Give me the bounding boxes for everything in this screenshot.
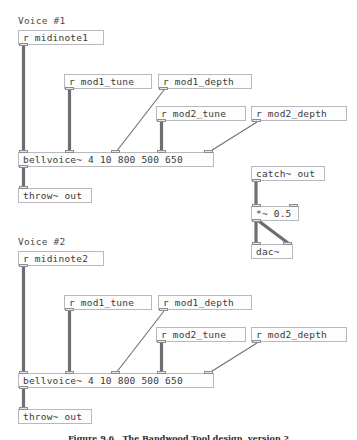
- object-r-midinote2[interactable]: r midinote2: [18, 251, 104, 266]
- inlet-bellvoice-v2-4[interactable]: [204, 371, 213, 374]
- object-r-midinote1[interactable]: r midinote1: [18, 30, 104, 45]
- outlet-r-mod2-depth-v2[interactable]: [252, 340, 261, 343]
- object-throw-out-v1[interactable]: throw~ out: [18, 188, 92, 203]
- inlet-bellvoice-v2-3[interactable]: [157, 371, 166, 374]
- outlet-gain[interactable]: [252, 219, 261, 222]
- outlet-bellvoice-v1[interactable]: [19, 165, 28, 168]
- inlet-dac-right[interactable]: [283, 242, 292, 245]
- outlet-r-midinote1[interactable]: [19, 43, 28, 46]
- object-r-mod1-tune-v1[interactable]: r mod1_tune: [64, 74, 152, 89]
- figure-caption: Figure 9.6 The Bandwood Tool design, ver…: [0, 433, 357, 440]
- outlet-r-mod2-tune-v1[interactable]: [157, 119, 166, 122]
- inlet-throw-out-v2[interactable]: [19, 407, 28, 410]
- object-r-mod2-depth-v1[interactable]: r mod2_depth: [251, 106, 347, 121]
- inlet-bellvoice-v1-4[interactable]: [204, 150, 213, 153]
- outlet-r-mod1-depth-v2[interactable]: [159, 308, 168, 311]
- comment-voice-1: Voice #1: [18, 15, 65, 27]
- outlet-r-mod1-tune-v2[interactable]: [65, 308, 74, 311]
- pd-patch-canvas: Voice #1 r midinote1 r mod1_tune r mod1_…: [0, 0, 357, 440]
- inlet-bellvoice-v2-2[interactable]: [111, 371, 120, 374]
- object-catch-out[interactable]: catch~ out: [251, 166, 325, 181]
- outlet-r-mod1-tune-v1[interactable]: [65, 87, 74, 90]
- inlet-dac-left[interactable]: [252, 242, 261, 245]
- outlet-r-mod2-depth-v1[interactable]: [252, 119, 261, 122]
- object-throw-out-v2[interactable]: throw~ out: [18, 409, 92, 424]
- object-r-mod2-depth-v2[interactable]: r mod2_depth: [251, 327, 347, 342]
- inlet-gain-right[interactable]: [289, 204, 298, 207]
- object-dac[interactable]: dac~: [251, 244, 293, 259]
- inlet-bellvoice-v2-0[interactable]: [19, 371, 28, 374]
- outlet-r-midinote2[interactable]: [19, 264, 28, 267]
- wire-mod2depth2-to-bellvoice: [209, 343, 257, 373]
- wire-mod2depth-to-bellvoice: [209, 122, 257, 152]
- inlet-bellvoice-v1-1[interactable]: [65, 150, 74, 153]
- object-r-mod2-tune-v1[interactable]: r mod2_tune: [156, 106, 246, 121]
- object-r-mod2-tune-v2[interactable]: r mod2_tune: [156, 327, 246, 342]
- object-bellvoice-v1[interactable]: bellvoice~ 4 10 800 500 650: [18, 152, 214, 167]
- outlet-r-mod2-tune-v2[interactable]: [157, 340, 166, 343]
- wire-gain-to-dac-right: [256, 219, 288, 243]
- inlet-bellvoice-v2-1[interactable]: [65, 371, 74, 374]
- object-bellvoice-v2[interactable]: bellvoice~ 4 10 800 500 650: [18, 373, 214, 388]
- comment-voice-2: Voice #2: [18, 236, 65, 248]
- inlet-throw-out-v1[interactable]: [19, 186, 28, 189]
- inlet-gain-left[interactable]: [252, 204, 261, 207]
- inlet-bellvoice-v1-0[interactable]: [19, 150, 28, 153]
- outlet-r-mod1-depth-v1[interactable]: [159, 87, 168, 90]
- object-r-mod1-depth-v2[interactable]: r mod1_depth: [158, 295, 252, 310]
- outlet-catch-out[interactable]: [252, 179, 261, 182]
- inlet-bellvoice-v1-2[interactable]: [111, 150, 120, 153]
- inlet-bellvoice-v1-3[interactable]: [157, 150, 166, 153]
- object-r-mod1-tune-v2[interactable]: r mod1_tune: [64, 295, 152, 310]
- outlet-bellvoice-v2[interactable]: [19, 386, 28, 389]
- object-r-mod1-depth-v1[interactable]: r mod1_depth: [158, 74, 252, 89]
